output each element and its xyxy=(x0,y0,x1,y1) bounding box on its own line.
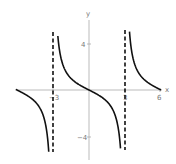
y-tick-label-4: 4 xyxy=(81,41,86,49)
curve-left-branch xyxy=(16,89,49,151)
x-axis-label: x xyxy=(165,86,169,94)
curve-right-branch xyxy=(129,32,161,90)
y-tick-label-neg4: −4 xyxy=(77,134,88,142)
y-axis-label: y xyxy=(86,10,90,18)
x-tick-label-neg3: −3 xyxy=(49,94,59,102)
tangent-chart: y x −3 3 6 4 −4 xyxy=(0,0,176,164)
x-tick-label-6: 6 xyxy=(157,94,162,102)
